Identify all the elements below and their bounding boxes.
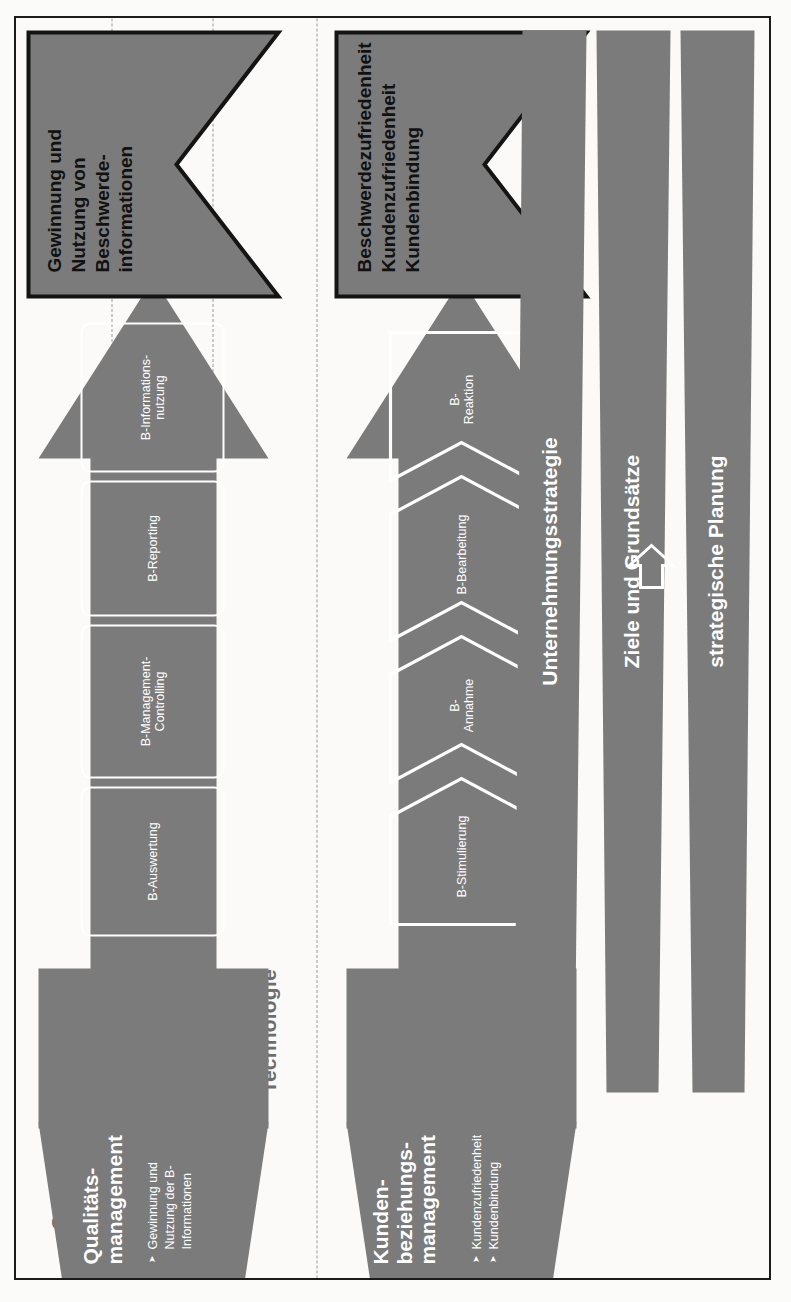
up-arrow-icon — [628, 542, 674, 590]
direct-step-4-label: B- Reaktion — [388, 332, 534, 466]
indirect-step-1: B-Auswertung — [80, 786, 224, 936]
base-bar-strategie-label: Unternehmungsstrategie — [514, 30, 584, 1092]
qualitaets-bullet-1: Gewinnung und Nutzung der B- Information… — [144, 1102, 195, 1262]
kundenbeziehungs-bullet-2: Kundenbindung — [485, 1102, 502, 1262]
direct-step-2: B- Annahme — [388, 640, 534, 770]
indirect-step-3: B-Reporting — [80, 480, 224, 616]
information-banner-text: Gewinnung und Nutzung von Beschwerde- in… — [42, 32, 137, 272]
diagram-stage-wrapper: Organisation und Kultur Personal und Kno… — [16, 18, 769, 1278]
direct-step-2-label: B- Annahme — [388, 640, 534, 770]
indirect-step-2: B-Management- Controlling — [80, 624, 224, 778]
direct-step-3-label: B-Bearbeitung — [388, 480, 534, 628]
direct-step-1-label: B-Stimulierung — [388, 786, 534, 926]
direct-step-4: B- Reaktion — [388, 332, 534, 466]
qualitaets-bullets: Gewinnung und Nutzung der B- Information… — [144, 1102, 195, 1262]
kundenbeziehungs-bullets: Kundenzufriedenheit Kundenbindung — [468, 1102, 502, 1262]
indirect-step-4: B-Informations- nutzung — [80, 322, 224, 472]
base-bar-planung-label: strategische Planung — [680, 30, 750, 1092]
outcome-banner-text: Beschwerdezufriedenheit Kundenzufriedenh… — [352, 32, 423, 272]
direct-step-1: B-Stimulierung — [388, 786, 534, 926]
direct-step-3: B-Bearbeitung — [388, 480, 534, 628]
diagram-stage: Organisation und Kultur Personal und Kno… — [16, 18, 769, 1278]
kundenbeziehungs-bullet-1: Kundenzufriedenheit — [468, 1102, 485, 1262]
diagram-page: Organisation und Kultur Personal und Kno… — [0, 0, 791, 1302]
band-divider-3 — [316, 18, 317, 1278]
kundenbeziehungs-title: Kunden- beziehungs- management — [368, 1114, 439, 1264]
qualitaets-title: Qualitäts- management — [78, 1114, 125, 1264]
